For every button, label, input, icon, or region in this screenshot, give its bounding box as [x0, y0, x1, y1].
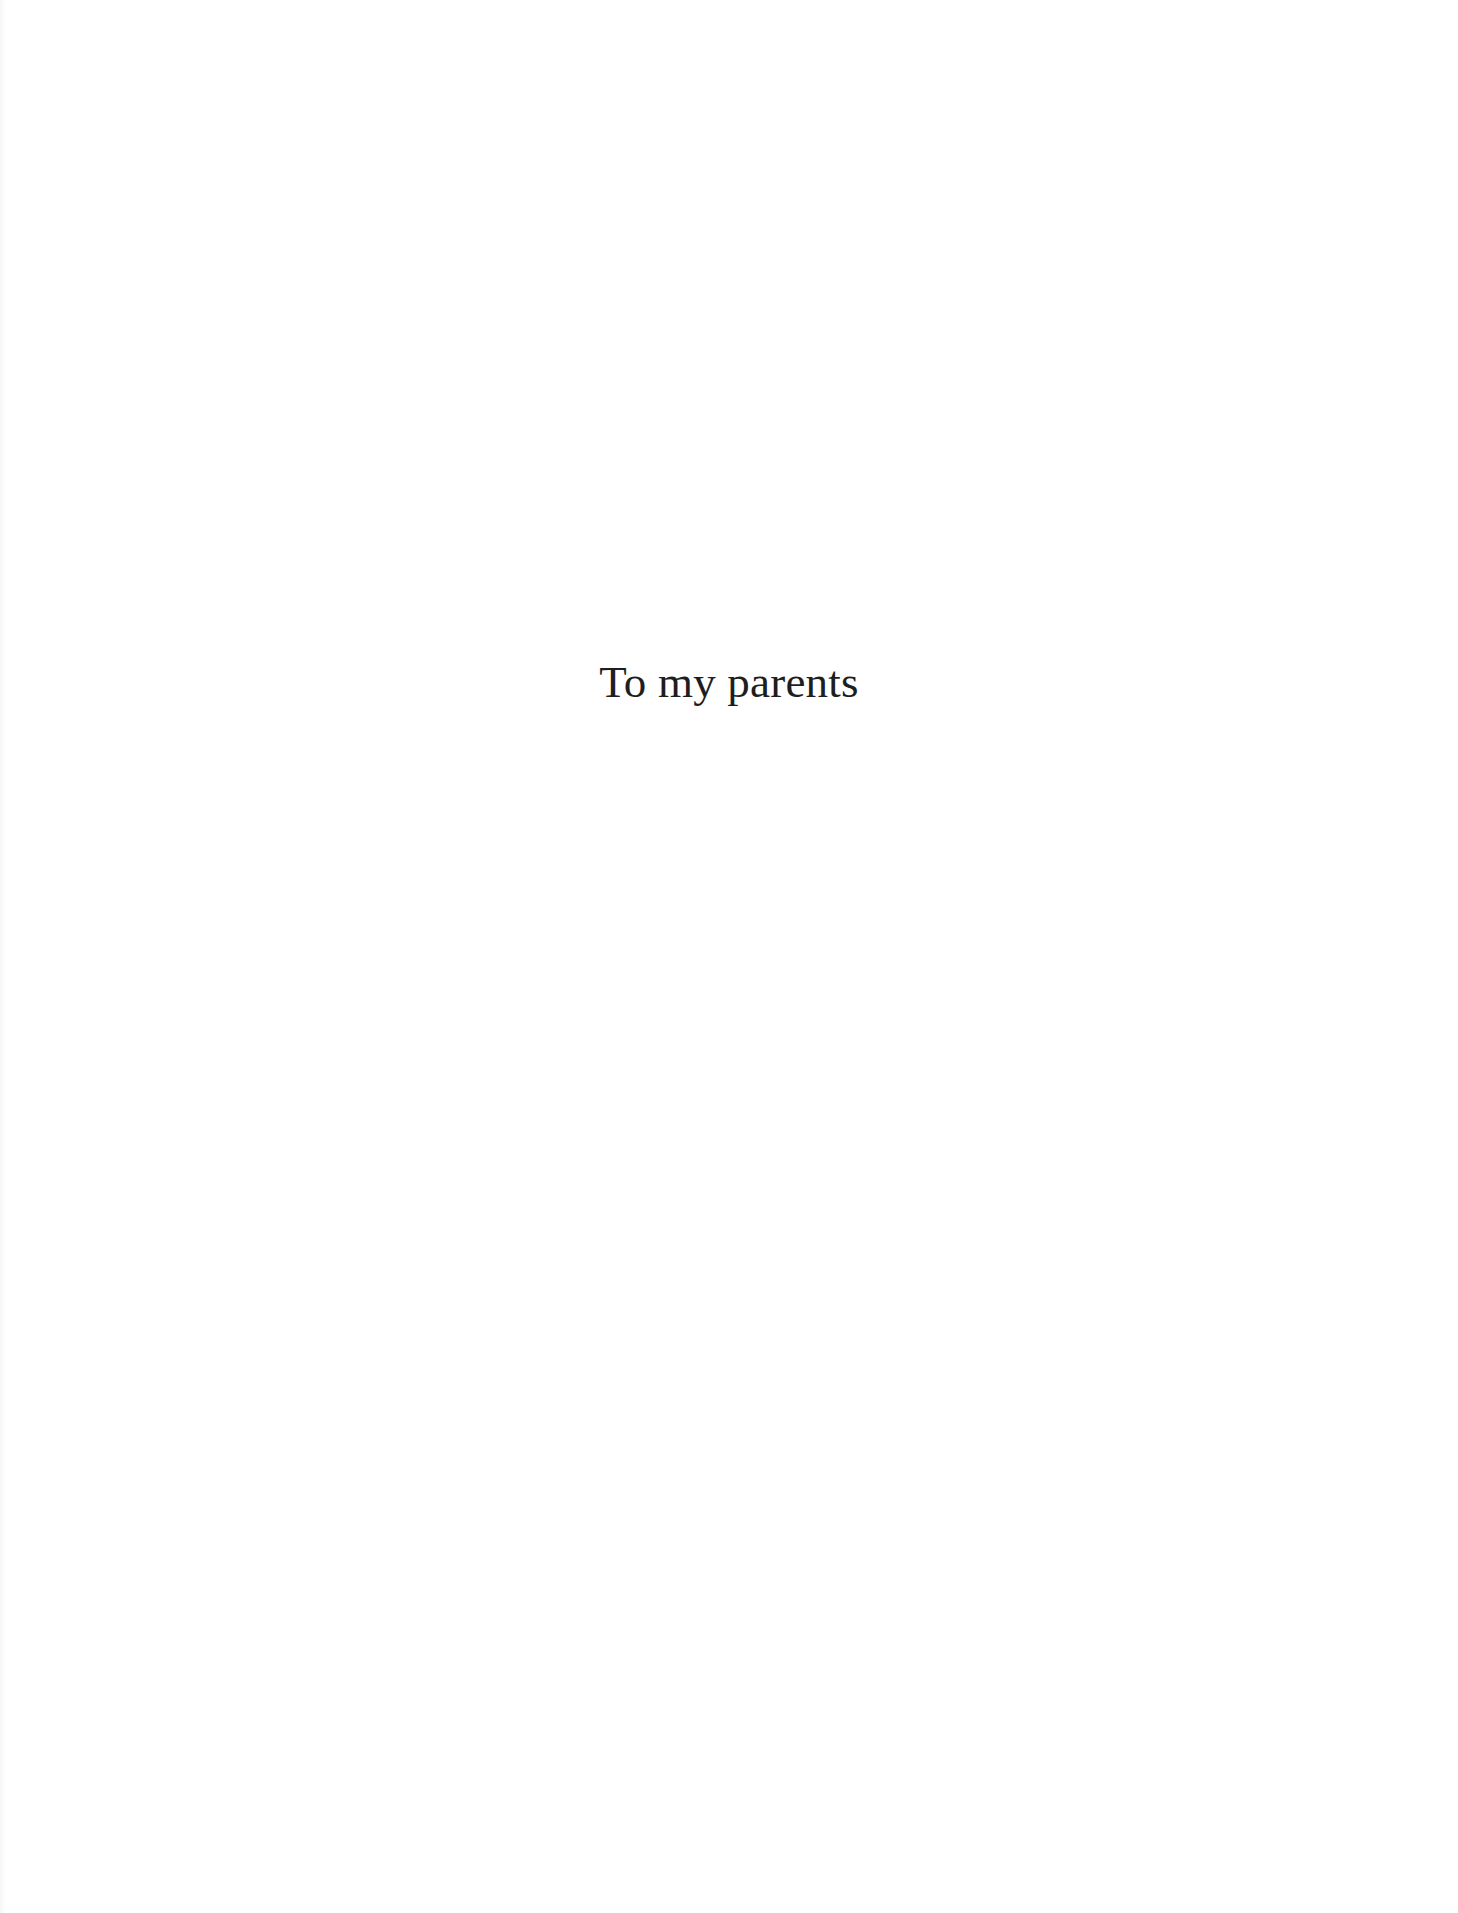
- scan-edge-artifact: [0, 0, 6, 1913]
- book-page: To my parents: [0, 0, 1458, 1913]
- dedication-text: To my parents: [0, 660, 1458, 705]
